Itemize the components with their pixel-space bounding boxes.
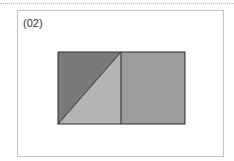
- right-square: [121, 52, 185, 124]
- split-rectangle-diagram: [0, 0, 234, 161]
